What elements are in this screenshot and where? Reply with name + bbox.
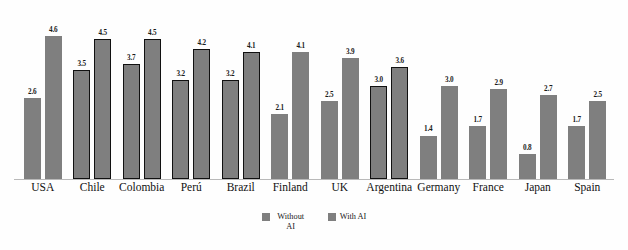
bar-with-ai: 4.1 (292, 19, 309, 179)
bar-value-label: 1.4 (424, 126, 433, 133)
bar-without-ai: 3.2 (172, 19, 189, 179)
x-axis-line (14, 179, 614, 180)
bar-with-ai: 2.9 (490, 19, 507, 179)
bar-without-ai: 2.5 (321, 19, 338, 179)
bar-value-label: 3.7 (127, 55, 136, 62)
bar-rect (144, 39, 161, 179)
legend-swatch-icon (328, 213, 336, 221)
bar-value-label: 3.9 (346, 49, 355, 56)
bar-rect (172, 80, 189, 179)
bar-with-ai: 4.5 (144, 19, 161, 179)
bar-rect (123, 64, 140, 179)
bar-with-ai: 3.6 (391, 19, 408, 179)
bar-value-label: 3.0 (445, 77, 454, 84)
tick-label-spain: Spain (563, 181, 613, 194)
bar-with-ai: 4.1 (243, 19, 260, 179)
bar-rect (568, 126, 585, 179)
bar-rect (73, 70, 90, 179)
bar-value-label: 2.5 (593, 92, 602, 99)
bar-with-ai: 2.7 (540, 19, 557, 179)
legend-entry[interactable]: Without AI (262, 212, 308, 231)
bar-without-ai: 0.8 (519, 19, 536, 179)
bar-rect (342, 58, 359, 179)
bar-value-label: 4.1 (296, 43, 305, 50)
bar-value-label: 2.5 (325, 92, 334, 99)
tick-label-finland: Finland (266, 181, 316, 194)
bar-group: 3.03.6 (367, 19, 411, 179)
bar-rect (222, 80, 239, 179)
bar-value-label: 3.0 (374, 77, 383, 84)
bar-rect (391, 67, 408, 179)
bar-group: 1.72.9 (466, 19, 510, 179)
x-axis-tick-labels: USAChileColombiaPerúBrazilFinlandUKArgen… (0, 181, 628, 205)
chart-legend: Without AIWith AI (0, 212, 628, 231)
bar-value-label: 4.5 (98, 30, 107, 37)
bar-rect (243, 52, 260, 179)
bar-rect (441, 86, 458, 179)
bar-without-ai: 2.1 (271, 19, 288, 179)
plot-area: 2.64.63.54.53.74.53.24.23.24.12.14.12.53… (0, 0, 628, 182)
tick-label-argentina: Argentina (365, 181, 415, 194)
bar-rect (24, 98, 41, 179)
bar-value-label: 4.5 (148, 30, 157, 37)
tick-label-japan: Japan (513, 181, 563, 194)
bar-rect (271, 114, 288, 179)
bar-value-label: 4.6 (49, 27, 58, 34)
bar-rect (420, 136, 437, 179)
tick-label-usa: USA (18, 181, 68, 194)
bar-value-label: 3.2 (176, 71, 185, 78)
bar-without-ai: 1.4 (420, 19, 437, 179)
bar-with-ai: 4.6 (45, 19, 62, 179)
bar-without-ai: 3.5 (73, 19, 90, 179)
bar-with-ai: 3.0 (441, 19, 458, 179)
bar-value-label: 4.1 (247, 43, 256, 50)
bar-without-ai: 3.0 (370, 19, 387, 179)
tick-label-brazil: Brazil (216, 181, 266, 194)
bar-rect (490, 89, 507, 179)
bar-rect (589, 101, 606, 179)
bar-rect (540, 95, 557, 179)
bar-value-label: 2.6 (28, 89, 37, 96)
bar-without-ai: 3.2 (222, 19, 239, 179)
bar-group: 2.53.9 (318, 19, 362, 179)
bar-group: 3.74.5 (120, 19, 164, 179)
bar-group: 1.72.5 (565, 19, 609, 179)
legend-label: With AI (340, 212, 367, 222)
bar-with-ai: 4.2 (193, 19, 210, 179)
bar-without-ai: 1.7 (568, 19, 585, 179)
bar-group: 0.82.7 (516, 19, 560, 179)
bar-value-label: 3.6 (395, 58, 404, 65)
bar-chart: 2.64.63.54.53.74.53.24.23.24.12.14.12.53… (0, 0, 628, 250)
bar-group: 3.24.2 (169, 19, 213, 179)
bar-rect (469, 126, 486, 179)
bar-value-label: 2.9 (494, 80, 503, 87)
bar-value-label: 3.2 (226, 71, 235, 78)
bar-without-ai: 2.6 (24, 19, 41, 179)
bar-rect (321, 101, 338, 179)
bar-without-ai: 3.7 (123, 19, 140, 179)
bar-value-label: 2.1 (275, 105, 284, 112)
bar-value-label: 1.7 (572, 117, 581, 124)
bar-rect (94, 39, 111, 179)
tick-label-france: France (464, 181, 514, 194)
bar-value-label: 1.7 (473, 117, 482, 124)
bar-value-label: 4.2 (197, 40, 206, 47)
legend-entry[interactable]: With AI (328, 212, 367, 222)
bar-rect (45, 36, 62, 179)
bar-without-ai: 1.7 (469, 19, 486, 179)
legend-label: Without AI (274, 212, 308, 231)
bar-value-label: 0.8 (523, 145, 532, 152)
legend-swatch-icon (262, 213, 270, 221)
bar-group: 2.64.6 (21, 19, 65, 179)
tick-label-chile: Chile (68, 181, 118, 194)
bar-rect (193, 49, 210, 179)
bar-rect (292, 52, 309, 179)
tick-label-germany: Germany (414, 181, 464, 194)
bar-with-ai: 2.5 (589, 19, 606, 179)
bar-rect (370, 86, 387, 179)
bar-with-ai: 4.5 (94, 19, 111, 179)
bar-value-label: 2.7 (544, 86, 553, 93)
bar-group: 2.14.1 (268, 19, 312, 179)
bar-group: 3.54.5 (70, 19, 114, 179)
tick-label-per: Perú (167, 181, 217, 194)
